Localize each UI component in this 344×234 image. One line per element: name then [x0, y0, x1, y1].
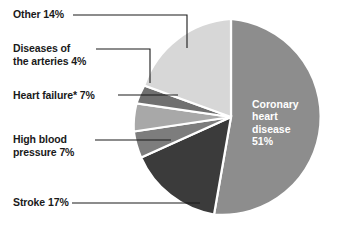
pie-label-heart-failure: Heart failure* 7%	[13, 89, 95, 102]
pie-label-coronary-heart-disease: Coronary heart disease 51%	[252, 98, 318, 148]
pie-label-stroke: Stroke 17%	[13, 196, 69, 209]
pie-label-diseases-of-the-arteries: Diseases of the arteries 4%	[13, 42, 86, 67]
pie-label-other: Other 14%	[13, 8, 64, 21]
pie-chart-figure: Other 14% Diseases of the arteries 4% He…	[0, 0, 344, 234]
pie-label-high-blood-pressure: High blood pressure 7%	[13, 133, 74, 158]
